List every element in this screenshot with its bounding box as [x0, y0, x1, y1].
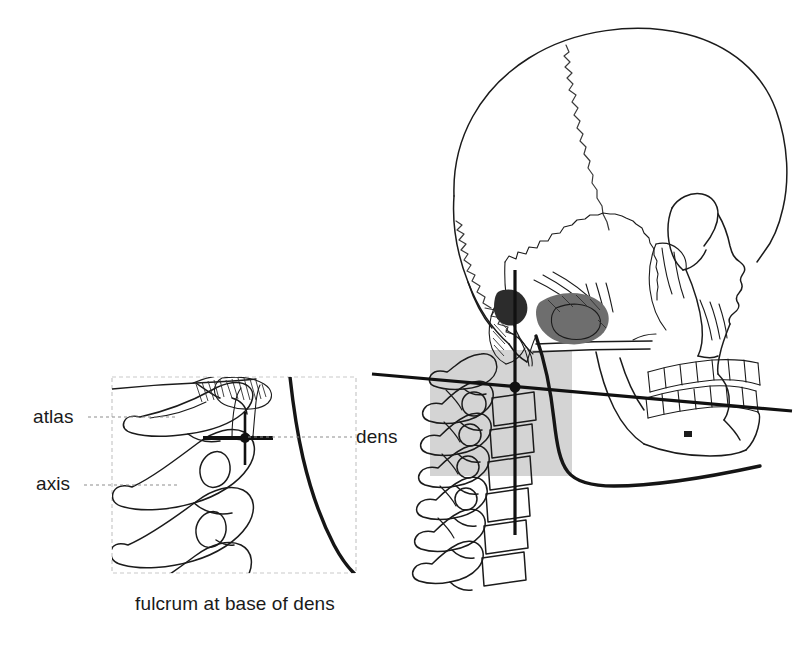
leader-lines	[0, 0, 807, 653]
label-dens: dens	[356, 426, 398, 448]
label-axis: axis	[36, 473, 70, 495]
caption-fulcrum-at-base-of-dens: fulcrum at base of dens	[113, 593, 357, 615]
label-atlas: atlas	[33, 406, 74, 428]
figure-canvas: atlas axis dens fulcrum at base of dens	[0, 0, 807, 653]
